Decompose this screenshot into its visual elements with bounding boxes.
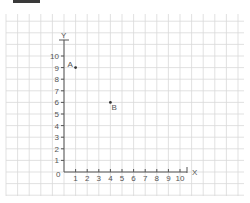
x-tick-label: 7 — [143, 174, 148, 183]
x-tick-label: 1 — [73, 174, 78, 183]
x-tick-label: 6 — [131, 174, 136, 183]
x-tick-label: 4 — [108, 174, 113, 183]
y-tick-label: 1 — [55, 156, 60, 165]
y-tick-label: 5 — [55, 110, 60, 119]
point-label-b: B — [111, 103, 116, 112]
x-tick-label: 9 — [166, 174, 171, 183]
x-axis-label: X — [192, 168, 198, 177]
y-tick-label: 4 — [55, 122, 60, 131]
coordinate-plane: XY01234567891012345678910AB — [0, 0, 250, 203]
point-a — [74, 66, 77, 69]
y-tick-label: 7 — [55, 87, 60, 96]
grid-lines — [6, 14, 244, 196]
x-tick-label: 2 — [85, 174, 90, 183]
y-tick-label: 8 — [55, 75, 60, 84]
x-tick-label: 3 — [97, 174, 102, 183]
x-tick-label: 10 — [176, 174, 185, 183]
y-tick-label: 10 — [50, 52, 59, 61]
y-tick-label: 6 — [55, 98, 60, 107]
x-tick-label: 5 — [120, 174, 125, 183]
origin-label: 0 — [56, 170, 61, 179]
point-label-a: A — [68, 60, 74, 69]
y-tick-label: 2 — [55, 145, 60, 154]
y-tick-label: 3 — [55, 133, 60, 142]
y-axis-label: Y — [61, 31, 67, 40]
x-tick-label: 8 — [155, 174, 160, 183]
y-tick-label: 9 — [55, 64, 60, 73]
